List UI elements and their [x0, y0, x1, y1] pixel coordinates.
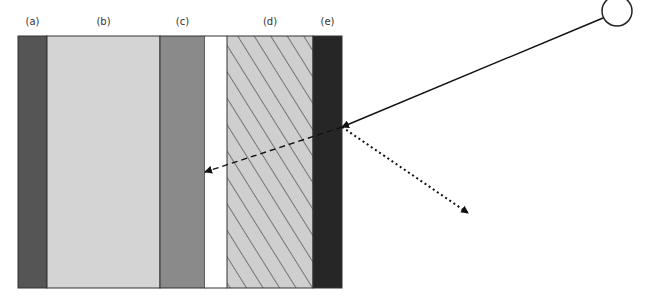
layer-c [160, 36, 205, 288]
reflected-ray [342, 127, 468, 213]
layer-a [18, 36, 47, 288]
layer-e [313, 36, 342, 288]
layer-b [47, 36, 160, 288]
light-source-icon [602, 0, 632, 26]
layered-wall-diagram [0, 0, 655, 304]
layer-gap [205, 36, 227, 288]
incident-ray [342, 18, 603, 127]
layer-d [227, 36, 313, 288]
